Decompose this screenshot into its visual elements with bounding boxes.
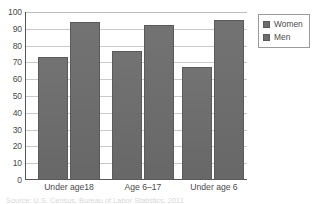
legend-label-women: Women xyxy=(274,20,303,29)
y-tick-label: 30 xyxy=(0,126,22,134)
y-axis-labels: 100 90 80 70 60 50 40 30 20 10 0 xyxy=(0,0,22,204)
y-tick-label: 60 xyxy=(0,75,22,83)
bar-group-age-6-17 xyxy=(112,12,174,180)
x-tick-label-under-age-18: Under age18 xyxy=(25,182,113,192)
y-tick-label: 70 xyxy=(0,58,22,66)
bar-men-age-6-17[interactable] xyxy=(144,25,174,180)
source-caption: Source: U.S. Census, Bureau of Labor Sta… xyxy=(6,196,306,204)
y-tick-label: 80 xyxy=(0,42,22,50)
legend-swatch-icon xyxy=(263,34,270,41)
bar-men-under-age-6[interactable] xyxy=(214,20,244,180)
bars-layer xyxy=(25,12,247,180)
bar-men-under-age-18[interactable] xyxy=(70,22,100,180)
legend-swatch-icon xyxy=(263,21,270,28)
y-tick-label: 20 xyxy=(0,142,22,150)
y-tick-label: 90 xyxy=(0,25,22,33)
legend-label-men: Men xyxy=(274,33,290,42)
legend-item-men[interactable]: Men xyxy=(263,32,305,43)
y-tick-label: 40 xyxy=(0,109,22,117)
y-tick-label: 50 xyxy=(0,92,22,100)
bar-women-under-age-6[interactable] xyxy=(182,67,212,180)
bar-women-under-age-18[interactable] xyxy=(38,57,68,180)
legend: Women Men xyxy=(258,14,310,48)
x-axis-labels: Under age18 Age 6–17 Under age 6 xyxy=(25,182,247,196)
y-tick-label: 0 xyxy=(0,176,22,184)
y-tick-label: 10 xyxy=(0,159,22,167)
bar-chart: 100 90 80 70 60 50 40 30 20 10 0 xyxy=(0,0,316,204)
bar-group-under-age-6 xyxy=(182,12,244,180)
y-tick-label: 100 xyxy=(0,8,22,16)
x-tick-label-under-age-6: Under age 6 xyxy=(171,182,257,192)
legend-item-women[interactable]: Women xyxy=(263,19,305,30)
bar-women-age-6-17[interactable] xyxy=(112,51,142,180)
bar-group-under-age-18 xyxy=(38,12,100,180)
